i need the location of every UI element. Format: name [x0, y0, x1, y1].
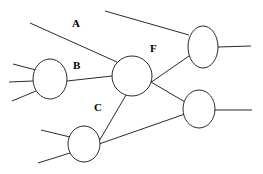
- stub-left-middle[interactable]: [9, 81, 33, 82]
- stub-bottom-upper[interactable]: [41, 130, 70, 137]
- edge-label-f: F: [150, 43, 157, 54]
- edge-F[interactable]: [150, 56, 189, 83]
- edge-B[interactable]: [67, 76, 112, 81]
- node-layer: [33, 26, 218, 162]
- edge-center-midright[interactable]: [151, 82, 185, 102]
- stub-left-lower[interactable]: [12, 91, 36, 101]
- stub-bottom-lower[interactable]: [38, 153, 70, 163]
- graph-svg: [0, 0, 263, 174]
- node-mid-right[interactable]: [183, 90, 215, 128]
- edge-label-b: B: [73, 60, 80, 71]
- edge-top-right-stub[interactable]: [105, 11, 189, 35]
- edge-label-c: C: [94, 102, 102, 113]
- node-bottom[interactable]: [68, 126, 100, 162]
- node-top-right[interactable]: [188, 26, 218, 68]
- stub-left-upper[interactable]: [13, 64, 36, 70]
- node-left[interactable]: [33, 59, 67, 99]
- node-center[interactable]: [112, 56, 152, 96]
- graph-diagram-canvas: A B C F: [0, 0, 263, 174]
- stub-top-right-right[interactable]: [218, 46, 251, 47]
- edge-label-a: A: [72, 18, 80, 29]
